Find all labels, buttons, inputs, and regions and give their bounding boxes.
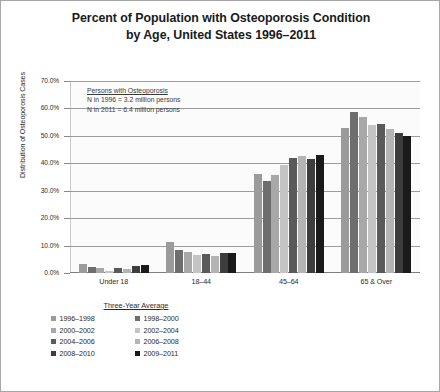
legend-label: 2008–2010 bbox=[60, 349, 95, 358]
legend-item[interactable]: 1998–2000 bbox=[135, 314, 219, 323]
x-axis-category-label: 45–64 bbox=[245, 277, 333, 286]
legend-item[interactable]: 2009–2011 bbox=[135, 349, 219, 358]
bar[interactable] bbox=[96, 268, 104, 273]
legend-label: 2000–2002 bbox=[60, 326, 95, 335]
legend-label: 2009–2011 bbox=[144, 349, 179, 358]
legend-item[interactable]: 1996–1998 bbox=[51, 314, 135, 323]
legend-item[interactable]: 2004–2006 bbox=[51, 337, 135, 346]
bar[interactable] bbox=[211, 256, 219, 273]
bar[interactable] bbox=[298, 156, 306, 273]
legend-label: 1996–1998 bbox=[60, 314, 95, 323]
legend-items: 1996–19981998–20002000–20022002–20042004… bbox=[51, 314, 221, 358]
bar[interactable] bbox=[307, 159, 315, 273]
legend-swatch bbox=[135, 339, 140, 344]
x-axis-category-label: 65 & Over bbox=[333, 277, 421, 286]
legend-item[interactable]: 2002–2004 bbox=[135, 326, 219, 335]
bar[interactable] bbox=[350, 112, 358, 273]
bar[interactable] bbox=[132, 266, 140, 273]
bar[interactable] bbox=[395, 133, 403, 273]
bar[interactable] bbox=[341, 128, 349, 273]
legend-swatch bbox=[51, 328, 56, 333]
bar[interactable] bbox=[271, 175, 279, 273]
bar[interactable] bbox=[105, 271, 113, 273]
y-axis-tick-label: 70.0% bbox=[19, 77, 59, 84]
y-axis-tick-label: 0.0% bbox=[19, 269, 59, 276]
y-axis-tick-label: 40.0% bbox=[19, 159, 59, 166]
bar[interactable] bbox=[88, 267, 96, 273]
bar[interactable] bbox=[228, 253, 236, 273]
bar[interactable] bbox=[289, 158, 297, 273]
y-axis-tick-mark bbox=[64, 273, 70, 274]
legend-title: Three-Year Average bbox=[51, 301, 221, 310]
y-axis-tick-label: 30.0% bbox=[19, 187, 59, 194]
chart-title: Percent of Population with Osteoporosis … bbox=[1, 10, 440, 44]
bar[interactable] bbox=[114, 268, 122, 273]
y-axis-tick-label: 10.0% bbox=[19, 242, 59, 249]
legend-item[interactable]: 2008–2010 bbox=[51, 349, 135, 358]
y-axis-tick-label: 20.0% bbox=[19, 214, 59, 221]
bar-group bbox=[70, 81, 158, 273]
legend-item[interactable]: 2006–2008 bbox=[135, 337, 219, 346]
bar[interactable] bbox=[263, 181, 271, 273]
x-axis-category-label: 18–44 bbox=[158, 277, 246, 286]
bar-group bbox=[158, 81, 246, 273]
legend-swatch bbox=[51, 351, 56, 356]
legend-label: 2002–2004 bbox=[144, 326, 179, 335]
legend-item[interactable]: 2000–2002 bbox=[51, 326, 135, 335]
bar[interactable] bbox=[141, 265, 149, 273]
y-axis-tick-label: 60.0% bbox=[19, 104, 59, 111]
bar[interactable] bbox=[123, 269, 131, 273]
bar[interactable] bbox=[202, 254, 210, 273]
bars-layer bbox=[70, 81, 420, 273]
bar[interactable] bbox=[359, 117, 367, 273]
legend-label: 1998–2000 bbox=[144, 314, 179, 323]
bar[interactable] bbox=[386, 129, 394, 273]
legend: Three-Year Average 1996–19981998–2000200… bbox=[51, 301, 221, 358]
bar-group bbox=[333, 81, 421, 273]
bar[interactable] bbox=[79, 264, 87, 273]
legend-label: 2004–2006 bbox=[60, 337, 95, 346]
x-axis-category-label: Under 18 bbox=[70, 277, 158, 286]
chart-title-line-1: Percent of Population with Osteoporosis … bbox=[1, 10, 440, 27]
bar[interactable] bbox=[368, 125, 376, 273]
legend-swatch bbox=[51, 316, 56, 321]
legend-swatch bbox=[51, 339, 56, 344]
bar[interactable] bbox=[184, 252, 192, 273]
chart-frame: Percent of Population with Osteoporosis … bbox=[0, 0, 440, 392]
bar[interactable] bbox=[166, 242, 174, 273]
bar-group bbox=[245, 81, 333, 273]
chart-title-line-2: by Age, United States 1996–2011 bbox=[1, 27, 440, 44]
legend-swatch bbox=[135, 316, 140, 321]
bar[interactable] bbox=[280, 165, 288, 273]
bar[interactable] bbox=[254, 174, 262, 273]
bar[interactable] bbox=[220, 253, 228, 273]
bar[interactable] bbox=[377, 124, 385, 273]
y-axis-tick-label: 50.0% bbox=[19, 132, 59, 139]
legend-swatch bbox=[135, 351, 140, 356]
bar[interactable] bbox=[316, 155, 324, 273]
bar[interactable] bbox=[193, 255, 201, 273]
legend-label: 2006–2008 bbox=[144, 337, 179, 346]
bar[interactable] bbox=[175, 250, 183, 273]
legend-swatch bbox=[135, 328, 140, 333]
bar[interactable] bbox=[403, 136, 411, 273]
